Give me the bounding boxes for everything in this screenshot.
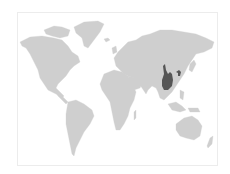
arctic-islands bbox=[44, 26, 70, 38]
australia bbox=[176, 116, 202, 140]
uk bbox=[112, 46, 117, 54]
north-america bbox=[20, 36, 80, 98]
philippines bbox=[180, 90, 184, 100]
se-asia-islands bbox=[168, 102, 186, 112]
south-america bbox=[66, 100, 94, 156]
madagascar bbox=[134, 110, 136, 120]
new-guinea bbox=[188, 108, 200, 112]
new-zealand bbox=[207, 136, 213, 148]
world-map bbox=[0, 0, 230, 174]
greenland bbox=[74, 21, 104, 48]
iceland bbox=[104, 38, 110, 42]
